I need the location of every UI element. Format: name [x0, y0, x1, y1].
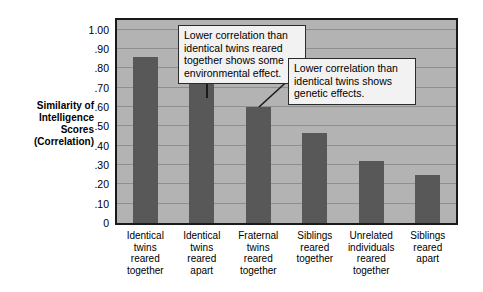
annotation-callout-environmental: Lower correlation than identical twins r…: [178, 25, 306, 84]
x-axis-category-label: Siblingsrearedapart: [400, 230, 457, 265]
annotation-line: Lower correlation than: [294, 62, 410, 75]
y-axis-tick-label: .40: [94, 141, 109, 151]
bar: [189, 82, 214, 223]
x-axis-category-label-line: reared: [174, 253, 231, 265]
x-axis-category-label: Unrelatedindividualsrearedtogether: [343, 230, 400, 276]
x-axis-category-label-line: Identical: [174, 230, 231, 242]
x-axis-category-label-line: twins: [117, 242, 174, 254]
y-axis-tick-label: .50: [94, 121, 109, 131]
annotation-line: identical twins shows: [294, 75, 410, 88]
x-axis-category-label-line: reared: [343, 253, 400, 265]
x-axis-category-label-line: reared: [117, 253, 174, 265]
x-axis-category-label: Identicaltwinsrearedapart: [174, 230, 231, 276]
annotation-callout-genetic: Lower correlation than identical twins s…: [288, 58, 416, 105]
x-axis-category-label-line: together: [343, 265, 400, 277]
x-axis-category-label-line: individuals: [343, 242, 400, 254]
x-axis-category-label-line: together: [117, 265, 174, 277]
x-axis-category-label-line: twins: [230, 242, 287, 254]
x-axis-category-label-line: together: [230, 265, 287, 277]
x-axis-category-label-line: Siblings: [287, 230, 344, 242]
annotation-line: together shows some: [184, 54, 300, 67]
bar: [302, 133, 327, 223]
y-axis-tick-label: .30: [94, 160, 109, 170]
y-axis-tick-labels: 0.10.20.30.40.50.60.70.80.901.00: [70, 18, 112, 225]
annotation-line: identical twins reared: [184, 42, 300, 55]
x-axis-category-label-line: twins: [174, 242, 231, 254]
x-axis-category-labels: IdenticaltwinsrearedtogetherIdenticaltwi…: [115, 230, 458, 290]
bar: [246, 107, 271, 223]
annotation-line: Lower correlation than: [184, 29, 300, 42]
x-axis-category-label-line: Siblings: [400, 230, 457, 242]
x-axis-category-label-line: Identical: [117, 230, 174, 242]
bar: [359, 161, 384, 223]
x-axis-category-label-line: together: [287, 253, 344, 265]
bar-chart: Similarity of Intelligence Scores (Corre…: [0, 0, 483, 292]
y-axis-tick-label: .10: [94, 199, 109, 209]
x-axis-category-label-line: reared: [400, 242, 457, 254]
x-axis-category-label-line: Fraternal: [230, 230, 287, 242]
y-axis-tick-label: .20: [94, 179, 109, 189]
x-axis-category-label-line: reared: [287, 242, 344, 254]
bar: [133, 57, 158, 223]
y-axis-tick-label: 0: [103, 218, 109, 228]
x-axis-category-label: Identicaltwinsrearedtogether: [117, 230, 174, 276]
y-axis-tick-label: 1.00: [89, 25, 109, 35]
x-axis-category-label-line: apart: [400, 253, 457, 265]
y-axis-tick-label: .90: [94, 44, 109, 54]
annotation-line: genetic effects.: [294, 87, 410, 100]
y-axis-tick-label: .60: [94, 102, 109, 112]
annotation-line: environmental effect.: [184, 67, 300, 80]
x-axis-category-label-line: reared: [230, 253, 287, 265]
y-axis-tick-label: .80: [94, 63, 109, 73]
x-axis-category-label: Fraternaltwinsrearedtogether: [230, 230, 287, 276]
bar: [415, 175, 440, 223]
x-axis-category-label-line: Unrelated: [343, 230, 400, 242]
x-axis-category-label-line: apart: [174, 265, 231, 277]
y-axis-tick-label: .70: [94, 83, 109, 93]
x-axis-category-label: Siblingsrearedtogether: [287, 230, 344, 265]
